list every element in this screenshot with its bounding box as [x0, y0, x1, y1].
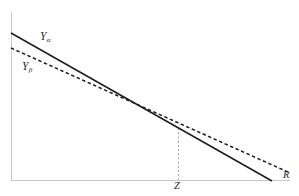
- line-chart-figure: Yα Yβ Z R: [0, 0, 299, 196]
- crossing-point-label: Z: [174, 181, 180, 192]
- series-label-y-alpha-subscript: α: [47, 36, 51, 44]
- series-label-y-alpha: Yα: [40, 31, 50, 43]
- series-label-y-alpha-base: Y: [40, 30, 46, 42]
- series-label-y-beta-base: Y: [22, 60, 28, 72]
- x-axis-label: R: [283, 170, 289, 181]
- series-label-y-beta-subscript: β: [29, 66, 33, 74]
- series-label-y-beta: Yβ: [22, 61, 32, 73]
- series-line-y-beta: [11, 48, 288, 172]
- series-line-y-alpha: [11, 33, 272, 181]
